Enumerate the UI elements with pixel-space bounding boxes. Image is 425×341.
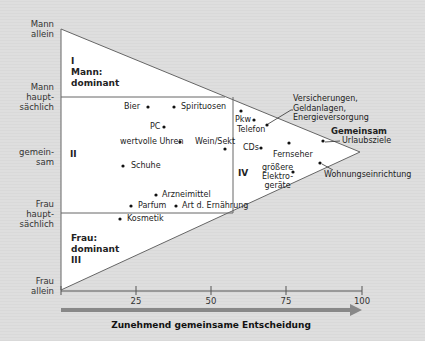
- item-wertvolle-uhren: wertvolle Uhren: [120, 137, 183, 147]
- item-pkw: Pkw: [235, 115, 251, 125]
- item-cds: CDs: [243, 143, 259, 153]
- item-line: Elektro-: [262, 172, 293, 181]
- y-label-line: Frau: [0, 276, 54, 286]
- item-pc: PC: [150, 122, 160, 132]
- region-title: dominant: [71, 244, 119, 255]
- item-line: Versicherungen,: [293, 94, 369, 104]
- y-label-line: sächlich: [0, 102, 54, 112]
- y-label-gemeinsam: gemein- sam: [0, 147, 54, 167]
- y-label-line: sächlich: [0, 219, 54, 229]
- diagram: Mann allein Mann haupt- sächlich gemein-…: [0, 0, 425, 341]
- y-label-frau-allein: Frau allein: [0, 276, 54, 296]
- y-label-line: Frau: [0, 199, 54, 209]
- region-number: III: [71, 255, 119, 266]
- y-label-line: sam: [0, 157, 54, 167]
- item-line: größere: [262, 163, 293, 172]
- x-tick-75: 75: [271, 296, 301, 306]
- item-kosmetik: Kosmetik: [127, 214, 164, 224]
- item-line: Energieversorgung: [293, 113, 369, 123]
- region-iii-label: Frau: dominant III: [71, 233, 119, 266]
- y-label-line: allein: [0, 286, 54, 296]
- y-label-line: gemein-: [0, 147, 54, 157]
- y-label-frau-hauptsaechlich: Frau haupt- sächlich: [0, 199, 54, 229]
- item-fernseher: Fernseher: [273, 150, 313, 160]
- item-versicherungen: Versicherungen, Geldanlagen, Energievers…: [293, 94, 369, 123]
- item-wein-sekt: Wein/Sekt: [195, 137, 235, 147]
- item-bier: Bier: [124, 102, 140, 112]
- item-wohnungseinrichtung: Wohnungseinrichtung: [324, 170, 411, 180]
- item-arzneimittel: Arzneimittel: [162, 190, 211, 200]
- item-spirituosen: Spirituosen: [181, 102, 226, 112]
- x-tick-50: 50: [196, 296, 226, 306]
- item-schuhe: Schuhe: [131, 161, 161, 171]
- item-parfum: Parfum: [138, 201, 166, 211]
- region-ii-label: II: [70, 149, 77, 160]
- item-art-ernaehrung: Art d. Ernährung: [182, 201, 248, 211]
- region-number: I: [71, 56, 119, 67]
- region-gemeinsam-label: Gemeinsam: [331, 126, 387, 136]
- x-tick-25: 25: [121, 296, 151, 306]
- y-label-line: haupt-: [0, 209, 54, 219]
- region-i-label: I Mann: dominant: [71, 56, 119, 89]
- item-urlaubsziele: Urlaubsziele: [342, 136, 391, 146]
- y-label-line: haupt-: [0, 92, 54, 102]
- item-line: geräte: [262, 181, 293, 190]
- y-label-mann-hauptsaechlich: Mann haupt- sächlich: [0, 82, 54, 112]
- y-label-mann-allein: Mann allein: [0, 19, 54, 39]
- x-axis-title: Zunehmend gemeinsame Entscheidung: [61, 320, 361, 330]
- y-label-line: Mann: [0, 19, 54, 29]
- region-title: Frau:: [71, 233, 119, 244]
- item-line: Geldanlagen,: [293, 104, 369, 114]
- item-groessere-elektrogeraete: größere Elektro- geräte: [262, 163, 293, 190]
- y-label-line: Mann: [0, 82, 54, 92]
- region-title: dominant: [71, 78, 119, 89]
- region-iv-label: IV: [238, 168, 248, 179]
- region-title: Mann:: [71, 67, 119, 78]
- y-label-line: allein: [0, 29, 54, 39]
- x-tick-100: 100: [347, 296, 377, 306]
- item-telefon: Telefon: [237, 125, 265, 135]
